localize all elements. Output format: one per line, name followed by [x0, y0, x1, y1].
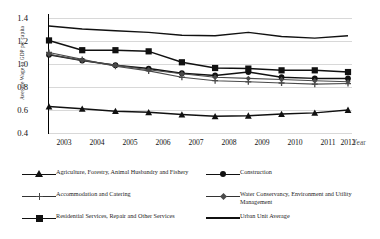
- data-point: [46, 37, 52, 43]
- data-point: [212, 65, 218, 71]
- legend-label-urban-unit-average: Urban Unit Average: [240, 212, 290, 220]
- legend-item-construction[interactable]: Construction: [206, 168, 376, 179]
- legend-marker-plus-icon: [22, 191, 56, 201]
- data-point: [79, 47, 85, 53]
- legend-item-agriculture[interactable]: Agriculture, Forestry, Animal Husbandry …: [22, 168, 202, 179]
- legend-label-water-conservancy: Water Conservancy, Environment and Utili…: [240, 190, 378, 205]
- legend-marker-square-icon: [22, 213, 56, 223]
- legend-label-agriculture: Agriculture, Forestry, Animal Husbandry …: [56, 168, 188, 176]
- series-2: [46, 50, 351, 88]
- data-point: [246, 76, 251, 81]
- legend-label-residential-services: Residential Services, Repair and Other S…: [56, 212, 175, 220]
- legend-item-residential-services[interactable]: Residential Services, Repair and Other S…: [22, 212, 202, 223]
- legend-label-construction: Construction: [240, 168, 272, 176]
- data-point: [112, 47, 118, 53]
- series-0: [46, 103, 352, 119]
- series-3: [46, 52, 350, 85]
- legend-marker-triangle-icon: [22, 169, 56, 179]
- legend-item-accommodation[interactable]: Accommodation and Catering: [22, 190, 202, 201]
- data-point: [278, 67, 284, 73]
- legend-label-accommodation: Accommodation and Catering: [56, 190, 131, 198]
- series-5: [49, 26, 348, 38]
- series-1: [46, 52, 351, 81]
- data-point: [146, 48, 152, 54]
- data-point: [345, 69, 351, 75]
- chart-figure: Average Wage to GDP per capita 1.4 1.2 1…: [0, 0, 380, 239]
- data-point: [245, 66, 251, 72]
- legend-item-urban-unit-average[interactable]: Urban Unit Average: [206, 212, 376, 223]
- legend-marker-line-icon: [206, 213, 240, 223]
- series-4: [46, 37, 351, 75]
- chart-legend: Agriculture, Forestry, Animal Husbandry …: [0, 166, 380, 238]
- legend-item-water-conservancy[interactable]: Water Conservancy, Environment and Utili…: [206, 190, 378, 205]
- legend-marker-circle-icon: [206, 169, 240, 179]
- data-point: [179, 59, 185, 65]
- data-point: [312, 67, 318, 73]
- legend-marker-diamond-icon: [206, 191, 240, 201]
